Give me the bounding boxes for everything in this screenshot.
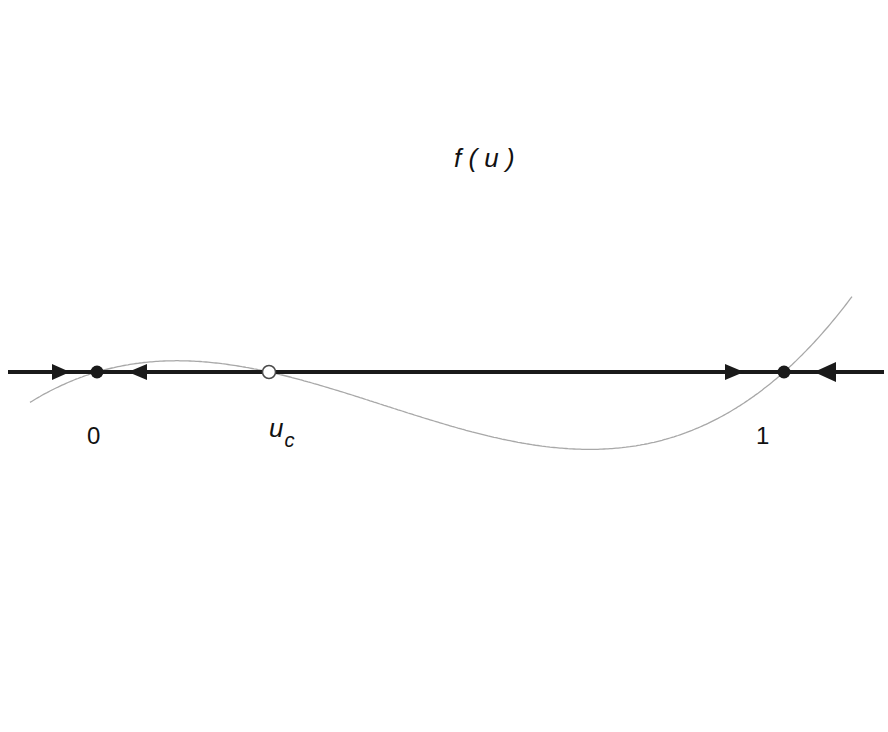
phase-line-diagram: f ( u ) 0 uc 1 [0,0,888,732]
arrow-left-icon [814,362,836,382]
unstable-fixed-point-uc [263,366,276,379]
fixed-point-label-uc: uc [269,413,294,451]
stable-fixed-point-one [778,366,791,379]
uc-main: u [269,413,283,443]
stable-fixed-point-zero [91,366,104,379]
curve-label: f ( u ) [454,143,515,173]
uc-subscript: c [284,429,294,451]
fixed-point-label-zero: 0 [87,422,100,449]
arrow-right-icon [52,364,70,380]
arrow-left-icon [128,364,147,380]
fixed-point-label-one: 1 [756,422,769,449]
arrow-right-icon [725,364,744,380]
